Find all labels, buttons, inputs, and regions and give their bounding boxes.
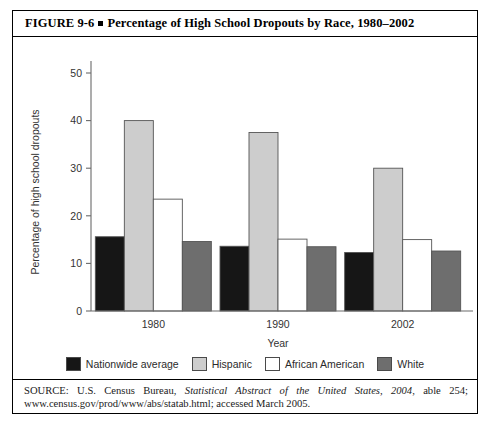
bar (182, 242, 211, 311)
legend-swatch-icon (265, 357, 280, 371)
figure-title-text: Percentage of High School Dropouts by Ra… (107, 16, 414, 30)
figure-title-bar: FIGURE 9-6Percentage of High School Drop… (13, 11, 477, 37)
legend-swatch-icon (192, 357, 207, 371)
bar-series-group (95, 121, 460, 311)
y-axis: 01020304050 (70, 61, 91, 317)
bar (124, 121, 153, 311)
y-axis-tick-label: 30 (70, 162, 82, 174)
bar (153, 199, 182, 311)
bar-chart: 01020304050 198019902002 YearPercentage … (13, 37, 479, 354)
bar (432, 251, 461, 311)
legend-item: White (377, 357, 424, 371)
bar (278, 239, 307, 311)
legend-item: Nationwide average (66, 357, 179, 371)
x-axis-title: Year (267, 337, 289, 349)
legend-label: Nationwide average (86, 358, 179, 370)
source-divider (13, 379, 477, 380)
legend-label: African American (285, 358, 364, 370)
bar (249, 133, 278, 312)
legend-label: White (397, 358, 424, 370)
bar (374, 168, 403, 311)
legend-swatch-icon (66, 357, 81, 371)
x-axis-tick-label: 1990 (266, 318, 290, 330)
x-axis-tick-label: 1980 (142, 318, 166, 330)
source-italic-title: Statistical Abstract of the United State… (185, 385, 412, 396)
legend-item: Hispanic (192, 357, 252, 371)
figure-container: FIGURE 9-6Percentage of High School Drop… (12, 10, 478, 414)
y-axis-title: Percentage of high school dropouts (29, 109, 41, 274)
source-prefix: SOURCE: U.S. Census Bureau, (24, 385, 185, 396)
y-axis-tick-label: 50 (70, 67, 82, 79)
bar (95, 237, 124, 311)
bar (345, 252, 374, 311)
square-bullet-icon (98, 21, 103, 26)
chart-legend: Nationwide averageHispanicAfrican Americ… (13, 351, 477, 377)
page-title: FIGURE 9-6Percentage of High School Drop… (25, 16, 414, 31)
figure-number: FIGURE 9-6 (25, 16, 94, 30)
legend-label: Hispanic (212, 358, 252, 370)
source-note: SOURCE: U.S. Census Bureau, Statistical … (24, 384, 468, 410)
bar (403, 240, 432, 311)
y-axis-tick-label: 20 (70, 210, 82, 222)
x-axis-tick-label: 2002 (391, 318, 415, 330)
y-axis-tick-label: 0 (76, 305, 82, 317)
legend-swatch-icon (377, 357, 392, 371)
x-axis: 198019902002 (91, 311, 473, 330)
chart-plot-region: 01020304050 198019902002 YearPercentage … (13, 37, 477, 354)
legend-item: African American (265, 357, 364, 371)
bar (307, 247, 336, 311)
y-axis-tick-label: 40 (70, 114, 82, 126)
y-axis-tick-label: 10 (70, 257, 82, 269)
bar (220, 246, 249, 311)
